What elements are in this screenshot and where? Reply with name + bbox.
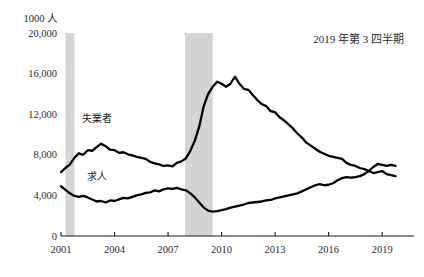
y-axis-tick-label-4000: 4,000	[33, 190, 57, 201]
y-axis-tick-label-0: 0	[52, 231, 57, 242]
x-axis-tick-label-2013: 2013	[265, 244, 286, 255]
x-axis-tick-label-2004: 2004	[104, 244, 126, 255]
recession-band-recession-2008	[185, 33, 213, 236]
series-label-unemployed: 失業者	[82, 112, 112, 124]
x-axis-tick-label-2007: 2007	[158, 244, 179, 255]
y-axis-tick-label-20000: 20,000	[28, 28, 57, 39]
y-axis-unit-label: 1000 人	[23, 13, 58, 24]
y-axis-tick-label-8000: 8,000	[33, 149, 57, 160]
x-axis-tick-label-2001: 2001	[51, 244, 72, 255]
x-axis-tick-label-2010: 2010	[211, 244, 232, 255]
x-axis-tick-label-2016: 2016	[318, 244, 339, 255]
line-chart: 04,0008,00012,00016,00020,000 2001200420…	[0, 0, 424, 277]
y-axis-tick-label-12000: 12,000	[28, 109, 57, 120]
recession-band-recession-2001	[65, 33, 74, 236]
chart-container: 04,0008,00012,00016,00020,000 2001200420…	[0, 0, 424, 277]
period-annotation: 2019 年第 3 四半期	[313, 32, 404, 45]
series-label-job-openings: 求人	[87, 171, 107, 182]
x-axis-tick-label-2019: 2019	[372, 244, 393, 255]
y-axis-tick-label-16000: 16,000	[28, 68, 57, 79]
